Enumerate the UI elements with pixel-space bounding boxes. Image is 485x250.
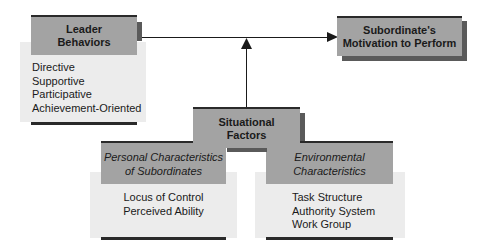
list-item: Authority System	[292, 205, 375, 219]
list-item: Locus of Control	[101, 191, 226, 205]
environmental-list: Task Structure Authority System Work Gro…	[292, 191, 375, 232]
leader-behaviors-list: Directive Supportive Participative Achie…	[32, 61, 141, 115]
leader-title-line1: Leader	[66, 23, 102, 36]
environmental-title-line1: Environmental	[294, 150, 364, 164]
situational-factors-box: Situational Factors	[193, 107, 300, 148]
personal-title-line1: Personal Characteristics	[104, 150, 223, 164]
list-item: Supportive	[32, 75, 141, 89]
personal-title-line2: of Subordinates	[125, 164, 202, 178]
outcome-title-line1: Subordinate's	[363, 24, 436, 37]
environmental-title-line2: Characteristics	[293, 164, 366, 178]
leader-title-line2: Behaviors	[57, 36, 110, 49]
personal-list: Locus of Control Perceived Ability	[101, 191, 226, 218]
list-item: Task Structure	[292, 191, 375, 205]
list-item: Participative	[32, 88, 141, 102]
situational-title-line1: Situational	[218, 116, 274, 129]
leader-behaviors-bottom-rule	[31, 122, 137, 125]
outcome-title-line2: Motivation to Perform	[343, 37, 457, 50]
leader-behaviors-header: Leader Behaviors	[31, 15, 137, 55]
list-item: Perceived Ability	[101, 205, 226, 219]
environmental-bottom-rule	[266, 237, 393, 240]
list-item: Directive	[32, 61, 141, 75]
situational-shadow-right	[300, 113, 305, 141]
list-item: Achievement-Oriented	[32, 102, 141, 116]
situational-shadow-bottom	[227, 148, 267, 152]
situational-to-line-connector	[246, 46, 247, 107]
outcome-box: Subordinate's Motivation to Perform	[337, 16, 462, 56]
situational-title-line2: Factors	[227, 129, 267, 142]
leader-behaviors-shadow	[137, 22, 142, 41]
arrowhead-up-icon	[241, 38, 252, 49]
leader-to-outcome-line	[140, 37, 330, 38]
personal-bottom-rule	[101, 237, 226, 240]
list-item: Work Group	[292, 218, 375, 232]
